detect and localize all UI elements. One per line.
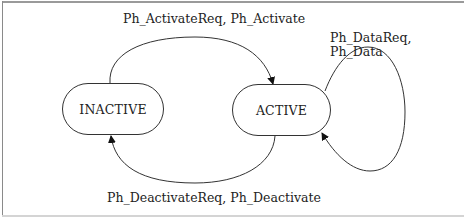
state-diagram: INACTIVE ACTIVE Ph_ActivateReq, Ph_Activ… xyxy=(0,0,464,219)
transition-activate-arrow xyxy=(110,37,273,84)
transition-deactivate-arrow xyxy=(111,136,275,183)
transition-data-label-line-2: Ph_Data xyxy=(330,45,411,59)
transition-data-label: Ph_DataReq, Ph_Data xyxy=(330,31,411,59)
state-inactive: INACTIVE xyxy=(62,83,164,135)
state-inactive-label: INACTIVE xyxy=(79,102,147,117)
transition-data-label-line-1: Ph_DataReq, xyxy=(330,31,411,45)
transition-data-self-loop-arrow xyxy=(322,47,405,171)
transition-activate-label: Ph_ActivateReq, Ph_Activate xyxy=(123,12,305,26)
state-active-label: ACTIVE xyxy=(256,103,307,118)
state-active: ACTIVE xyxy=(232,84,331,136)
transition-deactivate-label: Ph_DeactivateReq, Ph_Deactivate xyxy=(107,191,321,205)
